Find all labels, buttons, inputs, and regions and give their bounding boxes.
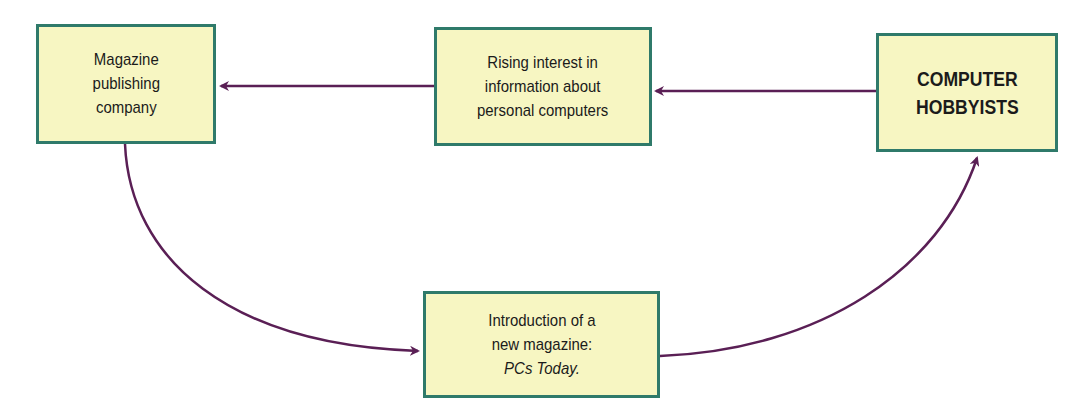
arrow-new-magazine-to-hobbyists	[660, 158, 977, 356]
node-label: Rising interest in information about per…	[477, 51, 608, 123]
node-magazine-publishing-company: Magazine publishing company	[36, 24, 216, 144]
node-computer-hobbyists: COMPUTER HOBBYISTS	[876, 33, 1058, 152]
node-label: Magazine publishing company	[92, 48, 159, 120]
node-label: COMPUTER HOBBYISTS	[916, 65, 1019, 121]
label-line: company	[92, 96, 159, 120]
magazine-title: PCs Today.	[488, 357, 595, 381]
label-line: Rising interest in	[477, 51, 608, 75]
label-line: information about	[477, 75, 608, 99]
label-line: new magazine:	[488, 333, 595, 357]
label-line: Introduction of a	[488, 309, 595, 333]
node-new-magazine: Introduction of a new magazine: PCs Toda…	[423, 291, 660, 398]
label-line: personal computers	[477, 99, 608, 123]
label-line: Magazine	[92, 48, 159, 72]
label-line: COMPUTER	[916, 65, 1019, 93]
label-line: publishing	[92, 72, 159, 96]
label-line: HOBBYISTS	[916, 93, 1019, 121]
node-label: Introduction of a new magazine: PCs Toda…	[488, 309, 595, 381]
arrow-publisher-to-new-magazine	[125, 144, 418, 351]
node-rising-interest: Rising interest in information about per…	[434, 27, 652, 146]
